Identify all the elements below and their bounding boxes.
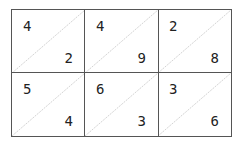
tens-digit: 4 [23,19,31,33]
ones-digit: 9 [138,51,146,65]
lattice-cell: 3 6 [158,73,231,136]
ones-digit: 3 [138,114,146,128]
lattice-cell: 4 9 [85,10,158,73]
tens-digit: 3 [169,82,177,96]
ones-digit: 4 [65,114,73,128]
tens-digit: 6 [96,82,104,96]
lattice-cell: 5 4 [12,73,85,136]
lattice-cell: 2 8 [158,10,231,73]
lattice-cell: 4 2 [12,10,85,73]
lattice-cell: 6 3 [85,73,158,136]
tens-digit: 5 [23,82,31,96]
tens-digit: 4 [96,19,104,33]
ones-digit: 6 [211,114,219,128]
tens-digit: 2 [169,19,177,33]
lattice-grid: 4 2 4 9 2 8 5 4 6 3 3 6 [11,9,232,137]
ones-digit: 2 [65,51,73,65]
ones-digit: 8 [211,51,219,65]
